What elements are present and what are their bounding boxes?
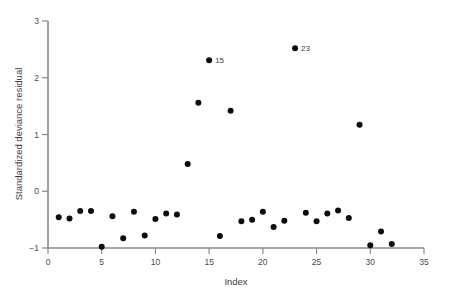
plot-canvas: −10123 05101520253035 1523 Index Standar… — [0, 0, 449, 293]
data-point — [271, 224, 277, 230]
data-point — [66, 215, 72, 221]
x-tick-label: 30 — [366, 257, 376, 267]
data-point — [77, 208, 83, 214]
y-tick-label: −1 — [29, 243, 39, 253]
data-point — [249, 217, 255, 223]
x-tick-label: 35 — [419, 257, 429, 267]
data-point — [217, 233, 223, 239]
data-point — [109, 213, 115, 219]
y-tick-label: 2 — [34, 73, 39, 83]
data-point — [228, 108, 234, 114]
data-point — [389, 241, 395, 247]
data-point — [56, 214, 62, 220]
x-tick-label: 5 — [99, 257, 104, 267]
data-point — [195, 100, 201, 106]
x-tick-label: 20 — [258, 257, 268, 267]
scatter-plot-figure: −10123 05101520253035 1523 Index Standar… — [0, 0, 449, 293]
data-point — [120, 235, 126, 241]
axes-group — [48, 21, 424, 248]
data-point — [163, 210, 169, 216]
x-axis-ticks: 05101520253035 — [46, 248, 429, 267]
y-axis-title: Standardized deviance residual — [13, 68, 24, 201]
data-point — [314, 218, 320, 224]
data-point — [142, 233, 148, 239]
data-point — [303, 210, 309, 216]
data-points-layer — [56, 45, 395, 250]
data-point — [335, 208, 341, 214]
data-point — [260, 209, 266, 215]
data-point — [131, 209, 137, 215]
data-point — [185, 161, 191, 167]
data-point — [292, 45, 298, 51]
data-point-label: 23 — [301, 44, 310, 53]
data-point — [324, 210, 330, 216]
data-point — [281, 218, 287, 224]
data-point — [378, 229, 384, 235]
x-tick-label: 25 — [312, 257, 322, 267]
y-tick-label: 3 — [34, 16, 39, 26]
x-tick-label: 15 — [204, 257, 214, 267]
x-tick-label: 0 — [46, 257, 51, 267]
data-point — [346, 215, 352, 221]
x-tick-label: 10 — [151, 257, 161, 267]
x-axis-title: Index — [224, 276, 247, 287]
data-point — [357, 122, 363, 128]
data-point — [152, 216, 158, 222]
data-point — [367, 242, 373, 248]
data-point — [88, 208, 94, 214]
data-point — [206, 57, 212, 63]
y-tick-label: 0 — [34, 186, 39, 196]
data-point — [174, 212, 180, 218]
data-point — [99, 244, 105, 250]
y-axis-ticks: −10123 — [29, 16, 48, 253]
data-point — [238, 218, 244, 224]
data-point-label: 15 — [215, 56, 224, 65]
y-tick-label: 1 — [34, 130, 39, 140]
